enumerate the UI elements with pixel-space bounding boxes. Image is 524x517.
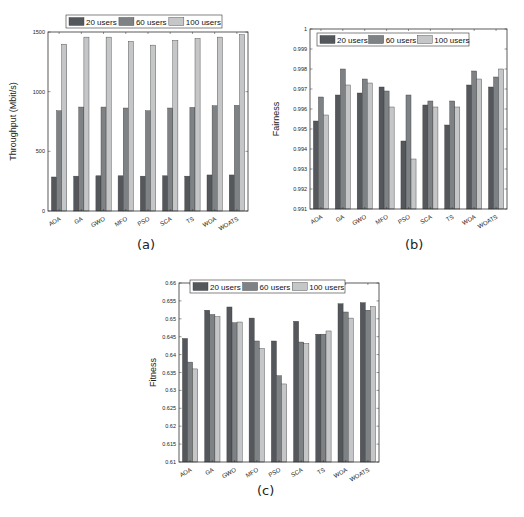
x-tick-label: TS [316,467,326,476]
chart-throughput: AOAGAGWOMFOPSOSCATSWOAWOATS050010001500T… [8,15,248,232]
bar-gwo-100-users [106,37,111,211]
legend: 20 users60 users100 users [190,280,345,293]
legend-swatch [193,283,208,291]
y-tick-label: 0.625 [162,405,176,411]
bar-mfo-100-users [259,349,264,462]
bar-mfo-60-users [123,108,128,211]
bar-gwo-100-users [237,322,242,462]
bar-gwo-60-users [362,79,367,209]
legend-swatch [320,36,335,44]
bar-aoa-20-users [51,177,56,211]
bar-woats-100-users [370,307,375,462]
bar-pso-20-users [271,341,276,462]
bar-mfo-60-users [384,91,389,209]
bar-woats-100-users [239,35,244,211]
x-tick-label: MFO [245,467,260,479]
bar-aoa-60-users [318,97,323,209]
legend-swatch [369,36,384,44]
bar-woats-60-users [234,105,239,211]
y-axis-label: Throughput (Mbit/s) [8,82,18,161]
x-tick-label: WOATS [477,214,499,230]
bar-ga-100-users [215,317,220,462]
bar-ga-60-users [79,107,84,211]
bar-ts-20-users [185,176,190,211]
bar-woa-20-users [338,304,343,462]
bar-gwo-20-users [96,176,101,211]
bar-aoa-20-users [313,121,318,209]
x-tick-label: WOA [461,214,476,226]
bar-pso-60-users [276,376,281,462]
bar-sca-20-users [163,176,168,211]
y-tick-label: 0.63 [165,387,176,393]
chart-fitness: AOAGAGWOMFOPSOSCATSWOAWOATS0.610.6150.62… [148,280,379,483]
y-tick-label: 0.65 [165,316,176,322]
legend-label: 100 users [309,283,344,292]
bar-woa-60-users [343,312,348,462]
bar-woa-100-users [477,79,482,209]
bar-sca-20-users [294,321,299,462]
bar-gwo-60-users [101,107,106,211]
y-tick-label: 0.998 [293,66,307,72]
x-tick-label: SCA [290,467,304,478]
y-tick-label: 0.995 [293,126,307,132]
x-tick-label: WOATS [349,467,371,483]
bar-mfo-20-users [249,318,254,462]
bar-pso-20-users [140,176,145,211]
x-tick-label: GA [73,216,84,226]
legend-swatch [417,36,432,44]
bar-ts-60-users [190,107,195,211]
y-tick-label: 0.655 [162,298,176,304]
bar-woa-100-users [348,318,353,462]
bar-woa-60-users [212,106,217,211]
x-tick-label: AOA [48,216,62,228]
bar-woa-20-users [207,175,212,211]
bar-ts-100-users [195,38,200,211]
x-tick-label: WOA [333,467,348,479]
legend-swatch [69,18,84,26]
legend-swatch [243,283,258,291]
x-tick-label: PSO [397,214,411,226]
bar-pso-100-users [411,159,416,209]
y-tick-label: 0.645 [162,334,176,340]
x-tick-label: MFO [375,214,390,226]
x-tick-label: GWO [90,216,106,229]
bar-sca-100-users [304,344,309,463]
x-tick-label: GWO [351,214,367,227]
bar-ts-100-users [455,107,460,209]
bar-mfo-20-users [118,176,123,211]
figure-canvas: AOAGAGWOMFOPSOSCATSWOAWOATS050010001500T… [0,0,524,517]
y-tick-label: 0.999 [293,46,307,52]
x-tick-label: PSO [268,467,282,479]
bar-mfo-20-users [379,87,384,209]
bar-sca-60-users [299,342,304,462]
bar-sca-100-users [173,40,178,211]
bar-pso-100-users [282,384,287,462]
bar-ts-20-users [316,334,321,462]
x-tick-label: TS [445,214,455,223]
y-tick-label: 0.66 [165,280,176,286]
y-tick-label: 0.991 [293,206,307,212]
caption-c: (c) [257,483,274,498]
legend-label: 20 users [337,36,368,45]
chart-fairness: AOAGAGWOMFOPSOSCATSWOAWOATS0.9910.9920.9… [271,26,507,230]
legend-label: 60 users [136,18,167,27]
bar-aoa-100-users [323,115,328,209]
y-tick-label: 0 [42,208,45,214]
legend-swatch [119,18,134,26]
bar-gwo-20-users [357,93,362,209]
y-tick-label: 0.994 [293,146,307,152]
x-tick-label: AOA [309,214,323,226]
legend-label: 60 users [386,36,417,45]
legend-label: 100 users [434,36,469,45]
legend-swatch [169,18,184,26]
legend: 20 users60 users100 users [317,33,469,46]
y-tick-label: 1 [304,26,307,32]
bar-woats-100-users [499,69,504,209]
y-tick-label: 500 [36,148,45,154]
bar-sca-60-users [168,108,173,211]
bar-ga-20-users [205,310,210,462]
bar-ga-20-users [335,95,340,209]
bar-pso-60-users [145,111,150,211]
y-tick-label: 0.996 [293,106,307,112]
bar-mfo-100-users [128,41,133,211]
